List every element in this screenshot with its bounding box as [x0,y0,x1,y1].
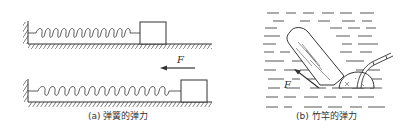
wall-hatch-bottom [23,80,28,102]
spring-stretched [28,87,181,96]
spring-relaxed [28,29,140,38]
force-arrow-a: F [160,54,195,71]
force-label-b: F [283,79,292,90]
block-top [140,22,166,44]
force-label-a: F [176,54,185,65]
caption-b: (b) 竹竿的弹力 [296,109,357,122]
panel-a-bottom [23,79,212,107]
panel-a-top [23,21,212,49]
boat-hull [339,72,374,88]
wall-hatch-top [23,22,28,44]
log [287,28,344,86]
ground-hatch-bottom [28,102,212,107]
caption-a: (a) 弹簧的弹力 [88,109,148,122]
block-bottom [181,80,207,102]
ground-hatch-top [28,44,212,49]
panel-b: F [263,13,393,107]
